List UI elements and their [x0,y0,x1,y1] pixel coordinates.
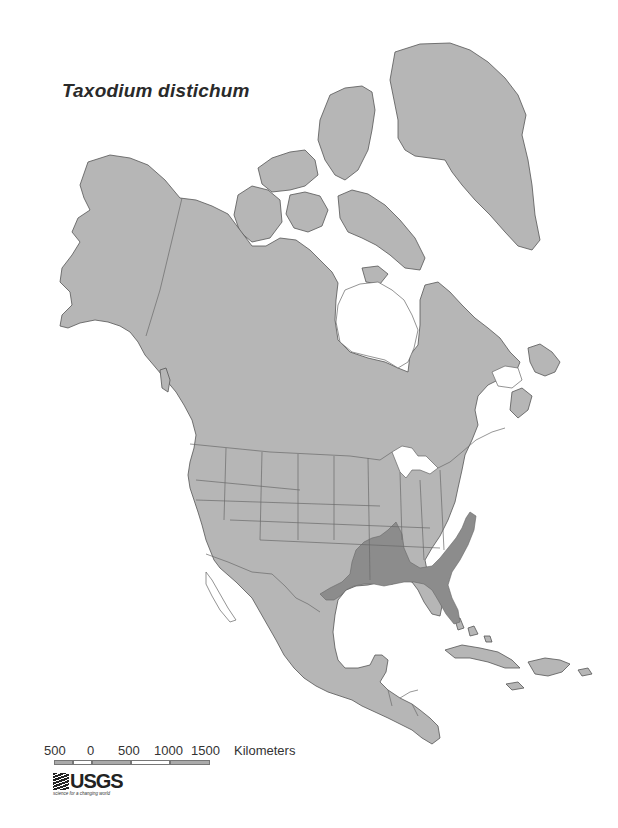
mainland-north-america [60,155,520,744]
arctic-islands-west [258,150,318,192]
scale-label-500: 500 [118,743,140,758]
scale-label-1500: 1500 [191,743,220,758]
usgs-wordmark: USGS [70,773,123,790]
north-america-map [0,0,618,828]
scale-segment [131,760,170,765]
usgs-logo: USGS science for a changing world [53,773,123,796]
usgs-wave-icon [53,773,69,790]
scale-segment [54,760,73,765]
usgs-tagline: science for a changing world [53,791,123,796]
greenland [390,43,540,250]
jamaica [506,682,524,690]
southampton-island [362,266,388,284]
nova-scotia [510,388,532,418]
scale-segment [73,760,92,765]
scale-label-0: 0 [87,743,94,758]
ellesmere-island [318,86,375,180]
scale-segment [170,760,210,765]
baffin-island [338,190,425,270]
arctic-islands-mid [286,192,328,232]
puerto-rico [578,668,592,676]
scale-label-1000: 1000 [154,743,183,758]
scale-bar-graphic [54,760,210,765]
scale-bar: 500 0 500 1000 1500 Kilometers [44,743,324,759]
gulf-of-california [206,572,236,622]
scale-label-neg500: 500 [44,743,66,758]
bahamas [455,618,492,642]
scale-segment [92,760,131,765]
scale-unit: Kilometers [234,743,295,758]
hispaniola [528,658,570,676]
cuba [445,645,520,668]
newfoundland [528,344,560,376]
